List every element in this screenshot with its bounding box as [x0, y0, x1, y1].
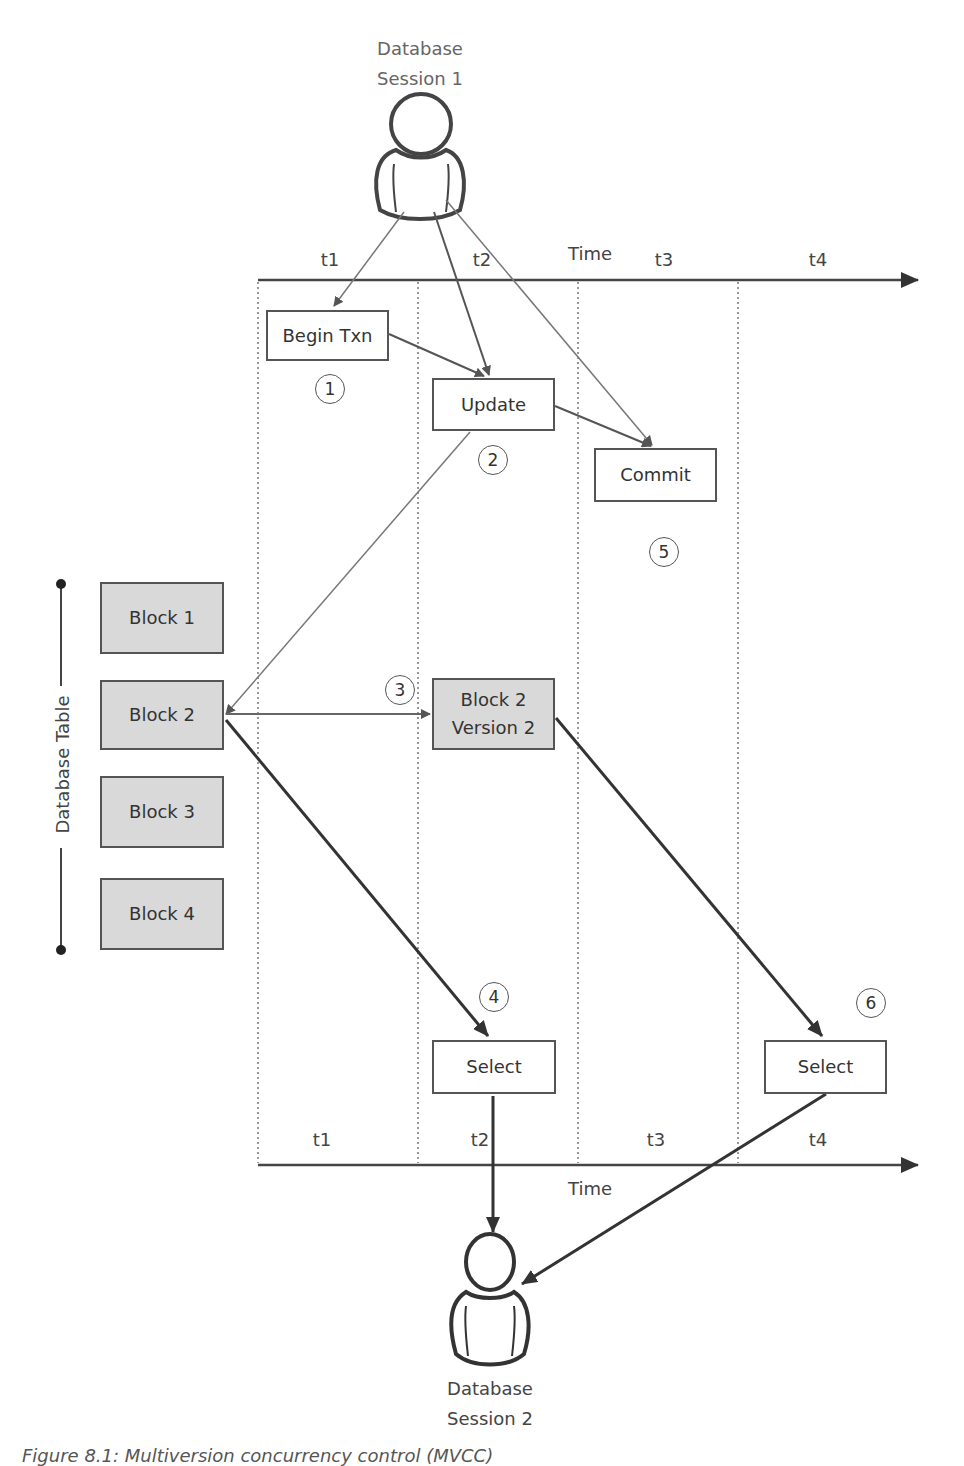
session-2-label-line1: Database [430, 1374, 550, 1404]
block-1: Block 1 [100, 582, 224, 654]
step-marker-4: 4 [479, 982, 509, 1012]
session-1-label-line2: Session 1 [360, 64, 480, 94]
session-2-label-line2: Session 2 [430, 1404, 550, 1434]
top-tick-t2: t2 [452, 249, 512, 270]
begin-txn-box: Begin Txn [266, 310, 389, 361]
block-2-version-2-line1: Block 2 [461, 686, 527, 714]
session-1-label-line1: Database [360, 34, 480, 64]
session-1-label: Database Session 1 [360, 34, 480, 94]
top-axis-label: Time [560, 243, 620, 264]
session1-arrows [226, 200, 652, 714]
top-tick-t3: t3 [634, 249, 694, 270]
block-4: Block 4 [100, 878, 224, 950]
bottom-tick-t1: t1 [292, 1129, 352, 1150]
block-2-version-2-box: Block 2 Version 2 [432, 678, 555, 750]
block-3: Block 3 [100, 776, 224, 848]
database-table-label: Database Table [52, 695, 73, 835]
figure-caption: Figure 8.1: Multiversion concurrency con… [22, 1445, 493, 1466]
update-box: Update [432, 378, 555, 431]
step-marker-3: 3 [385, 675, 415, 705]
select-box-2: Select [764, 1040, 887, 1094]
bottom-tick-t3: t3 [626, 1129, 686, 1150]
step-marker-2: 2 [478, 445, 508, 475]
step-marker-6: 6 [856, 988, 886, 1018]
step-marker-5: 5 [649, 537, 679, 567]
bottom-tick-t4: t4 [788, 1129, 848, 1150]
read-arrows [226, 718, 826, 1284]
user-icon-session-1 [376, 94, 464, 219]
commit-box: Commit [594, 448, 717, 502]
block-2: Block 2 [100, 680, 224, 750]
top-tick-t4: t4 [788, 249, 848, 270]
user-icon-session-2 [451, 1234, 528, 1365]
select-box-1: Select [432, 1040, 556, 1094]
session-2-label: Database Session 2 [430, 1374, 550, 1434]
bottom-axis-label: Time [560, 1178, 620, 1199]
bottom-tick-t2: t2 [450, 1129, 510, 1150]
block-2-version-2-line2: Version 2 [452, 714, 535, 742]
step-marker-1: 1 [315, 374, 345, 404]
top-tick-t1: t1 [300, 249, 360, 270]
